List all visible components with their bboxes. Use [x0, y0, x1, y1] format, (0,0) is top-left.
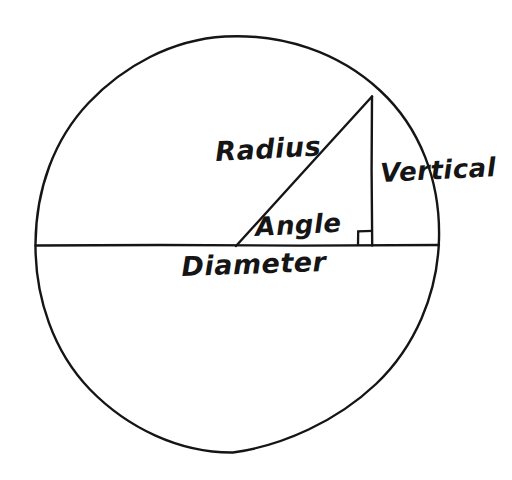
vertical-line [372, 97, 373, 246]
circle-geometry-diagram: Radius Vertical Angle Diameter [0, 0, 512, 480]
right-angle-marker-icon [358, 231, 372, 245]
radius-label: Radius [215, 132, 322, 165]
diameter-label: Diameter [181, 248, 327, 280]
angle-label: Angle [255, 210, 343, 240]
vertical-label: Vertical [380, 154, 497, 186]
